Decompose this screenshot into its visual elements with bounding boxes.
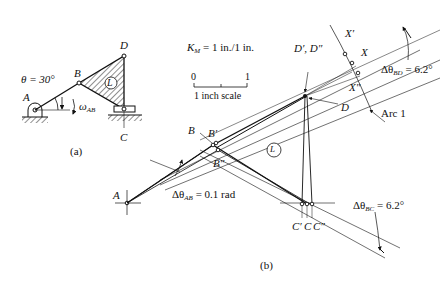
figure-b	[115, 25, 440, 258]
b-point-c-dprime-label: C″	[313, 221, 325, 232]
scale-factor-label: KM = 1 in./1 in.	[187, 42, 254, 55]
delta-bc-subscript: BC	[365, 205, 374, 213]
link-l-label: L	[107, 78, 113, 88]
delta-bd-symbol: Δθ	[381, 63, 393, 75]
delta-ab-label: ΔθAB = 0.1 rad	[172, 189, 235, 202]
delta-bd-value: = 6.2°	[405, 63, 432, 75]
delta-bd-label: ΔθBD = 6.2°	[381, 64, 433, 77]
delta-ab-subscript: AB	[184, 194, 193, 202]
delta-bd-subscript: BD	[393, 69, 402, 77]
b-point-a-label: A	[113, 190, 120, 201]
figure-a	[22, 54, 142, 128]
point-d-label: D	[120, 40, 128, 51]
b-point-x-prime-label: X′	[345, 28, 354, 39]
delta-ab-symbol: Δθ	[172, 188, 184, 200]
point-b-label: B	[74, 68, 81, 79]
scale-factor-subscript: M	[194, 47, 200, 55]
b-point-b-dprime-label: B″	[213, 158, 224, 169]
b-point-x-dprime-label: X″	[349, 82, 360, 93]
omega-label: ωAB	[79, 101, 95, 114]
b-point-c-label: C	[304, 221, 311, 232]
scale-caption: 1 inch scale	[194, 91, 241, 101]
delta-bc-symbol: Δθ	[353, 199, 365, 211]
delta-ab-value: = 0.1 rad	[196, 188, 236, 200]
b-point-d-primes-label: D′, D″	[294, 43, 322, 54]
omega-subscript: AB	[87, 106, 96, 114]
scale-factor-value: = 1 in./1 in.	[203, 41, 254, 53]
scale-start: 0	[191, 72, 196, 82]
delta-bc-value: = 6.2°	[377, 199, 404, 211]
point-a-label: A	[23, 92, 30, 103]
theta-label: θ = 30°	[21, 74, 55, 85]
b-point-b-label: B	[188, 125, 195, 136]
b-link-l-label: L	[270, 145, 275, 154]
arc-1-label: Arc 1	[381, 108, 406, 119]
point-c-label: C	[120, 132, 127, 143]
caption-b: (b)	[260, 260, 273, 271]
b-point-d-label: D	[341, 102, 349, 113]
b-point-b-prime-label: B′	[208, 128, 217, 139]
linkage-diagram: θ = 30° A B D C L ωAB (a) KM = 1 in./1 i…	[0, 0, 447, 287]
omega-symbol: ω	[79, 100, 87, 112]
caption-a: (a)	[70, 146, 82, 157]
b-point-x-label: X	[361, 47, 368, 58]
b-point-c-prime-label: C′	[292, 221, 302, 232]
delta-bc-label: ΔθBC = 6.2°	[353, 200, 404, 213]
scale-end: 1	[245, 72, 250, 82]
